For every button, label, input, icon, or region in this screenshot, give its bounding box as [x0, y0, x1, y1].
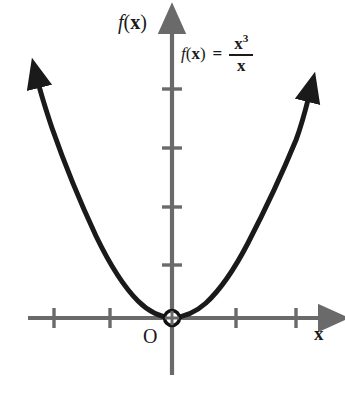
removable-discontinuity-hole: [165, 311, 180, 326]
x-axis-label: x: [314, 324, 324, 343]
curve-left-branch: [38, 82, 172, 318]
curve-right-branch: [172, 96, 309, 318]
y-axis-label: f(x): [118, 12, 147, 32]
equation-lhs-variable: x: [191, 44, 200, 63]
y-axis-label-variable: x: [130, 11, 140, 33]
equation-equals-sign: =: [211, 45, 225, 62]
equation-lhs-paren-close: ): [200, 44, 206, 63]
equation-denominator: x: [233, 56, 250, 75]
function-graph-figure: f(x) x O f(x) = x3 x: [0, 0, 345, 398]
equation-lhs: f(x): [181, 45, 206, 62]
equation-annotation: f(x) = x3 x: [181, 32, 253, 75]
plot-canvas: [0, 0, 345, 398]
equation-numerator: x3: [230, 32, 252, 54]
y-axis-label-paren-close: ): [140, 11, 147, 33]
origin-label: O: [143, 326, 157, 346]
equation-numerator-base: x: [234, 34, 243, 53]
equation-numerator-exponent: 3: [243, 32, 249, 44]
equation-fraction: x3 x: [229, 32, 253, 75]
